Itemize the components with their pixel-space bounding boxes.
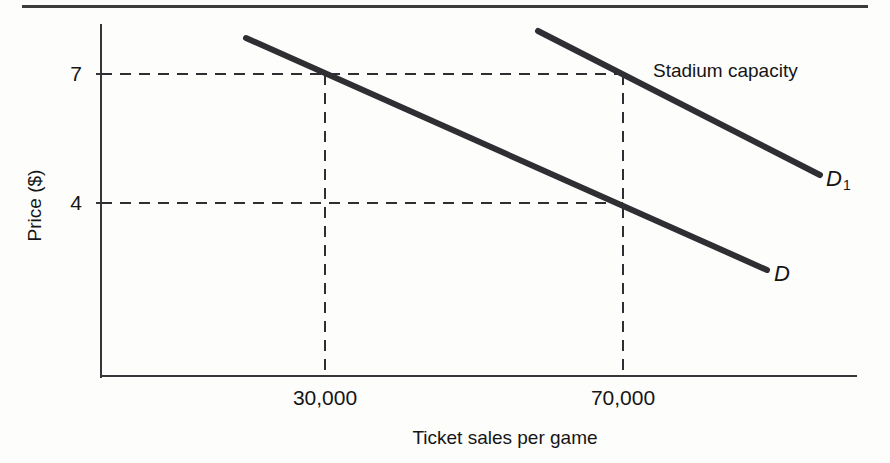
stadium-capacity-annotation: Stadium capacity bbox=[653, 61, 798, 80]
y-tick-label-4: 4 bbox=[42, 192, 82, 213]
y-axis-title: Price ($) bbox=[25, 136, 44, 276]
x-axis-line bbox=[100, 375, 857, 377]
reference-guide-lines bbox=[101, 74, 623, 376]
demand-curve-d1-label-subscript: 1 bbox=[843, 177, 851, 193]
y-tick-mark-7 bbox=[96, 73, 105, 75]
y-tick-mark-4 bbox=[96, 202, 105, 204]
y-axis-line bbox=[100, 24, 102, 378]
demand-curve-d1-label: D1 bbox=[826, 168, 850, 190]
demand-curve-d-label-text: D bbox=[774, 261, 790, 286]
demand-curve-d-label: D bbox=[774, 263, 790, 285]
x-tick-label-70000: 70,000 bbox=[553, 387, 693, 408]
demand-curve-d1-label-text: D bbox=[826, 166, 842, 191]
x-axis-title: Ticket sales per game bbox=[335, 428, 675, 447]
x-tick-label-30000: 30,000 bbox=[255, 387, 395, 408]
y-tick-label-7: 7 bbox=[42, 63, 82, 84]
top-divider-rule bbox=[22, 5, 868, 8]
ticket-demand-figure: 7 4 30,000 70,000 Price ($) Ticket sales… bbox=[0, 0, 890, 463]
demand-curve-d1 bbox=[538, 31, 820, 175]
